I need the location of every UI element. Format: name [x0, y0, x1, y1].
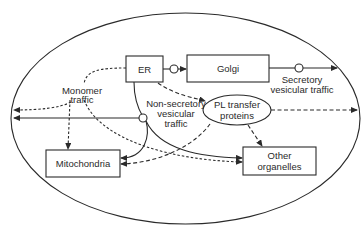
nonsecretory-annotation: Non-secretory vesicular traffic: [146, 98, 206, 129]
nonsecretory-label-3: traffic: [164, 118, 187, 129]
er-node: ER: [126, 56, 163, 82]
monomer-label-2: traffic: [70, 94, 93, 105]
er-label: ER: [138, 64, 151, 75]
mitochondria-label: Mitochondria: [56, 158, 111, 169]
other-organelles-label-1: Other: [268, 150, 292, 161]
secretory-arrow: [269, 64, 337, 72]
golgi-node: Golgi: [187, 55, 269, 82]
golgi-label: Golgi: [217, 63, 239, 74]
pl-transfer-label-1: PL transfer: [214, 99, 260, 110]
mitochondria-node: Mitochondria: [46, 150, 120, 177]
pl-transfer-label-2: proteins: [220, 110, 254, 121]
secretory-annotation: Secretory vesicular traffic: [270, 74, 333, 95]
pl-transfer-node: PL transfer proteins: [203, 95, 271, 125]
other-organelles-label-2: organelles: [258, 161, 302, 172]
secretory-label-2: vesicular traffic: [270, 84, 333, 95]
other-organelles-node: Other organelles: [243, 147, 316, 175]
lipid-traffic-diagram: ER Golgi Mitochondria Other organelles P…: [0, 0, 363, 229]
er-golgi-arrow: [163, 65, 186, 73]
monomer-traffic-annotation: Monomer traffic: [61, 85, 107, 105]
nonsecretory-arrows: [14, 82, 242, 158]
